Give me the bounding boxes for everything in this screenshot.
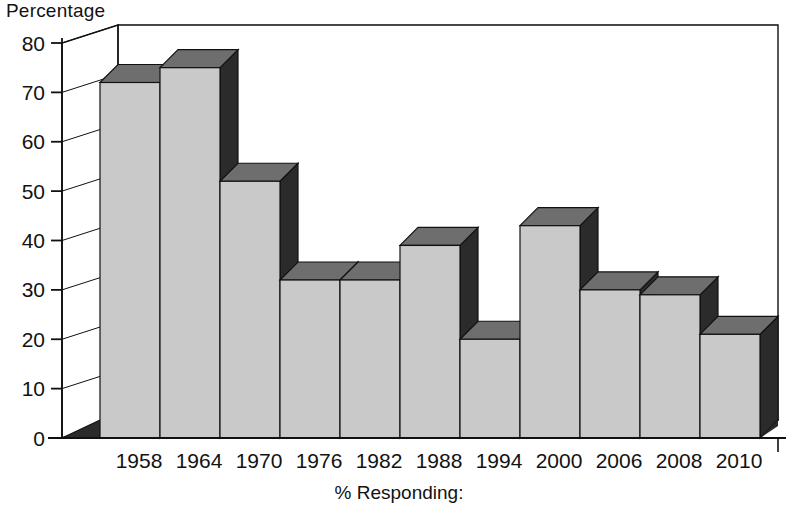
x-tick-label: 1994 <box>476 449 523 472</box>
y-tick-label: 30 <box>22 278 45 301</box>
x-axis-caption: % Responding: <box>0 482 798 504</box>
chart-canvas: 01020304050607080 1958196419701976198219… <box>0 0 798 510</box>
x-tick-label: 2010 <box>716 449 763 472</box>
x-tick-label: 1958 <box>116 449 163 472</box>
bar-chart: Percentage 01020304050607080 19581964197… <box>0 0 798 510</box>
x-tick-label: 2006 <box>596 449 643 472</box>
x-axis-tick-labels: 1958196419701976198219881994200020062008… <box>116 449 763 472</box>
y-axis-tick-labels: 01020304050607080 <box>22 32 45 450</box>
y-tick-label: 80 <box>22 32 45 55</box>
x-tick-label: 1970 <box>236 449 283 472</box>
x-tick-label: 1982 <box>356 449 403 472</box>
y-tick-label: 0 <box>33 427 45 450</box>
x-tick-label: 1976 <box>296 449 343 472</box>
y-tick-label: 50 <box>22 180 45 203</box>
x-tick-label: 1988 <box>416 449 463 472</box>
bar-2010 <box>700 316 778 438</box>
x-tick-label: 2000 <box>536 449 583 472</box>
y-tick-label: 20 <box>22 328 45 351</box>
y-tick-label: 60 <box>22 130 45 153</box>
y-tick-label: 10 <box>22 377 45 400</box>
y-tick-label: 40 <box>22 229 45 252</box>
y-tick-label: 70 <box>22 81 45 104</box>
x-tick-label: 1964 <box>176 449 223 472</box>
x-tick-label: 2008 <box>656 449 703 472</box>
